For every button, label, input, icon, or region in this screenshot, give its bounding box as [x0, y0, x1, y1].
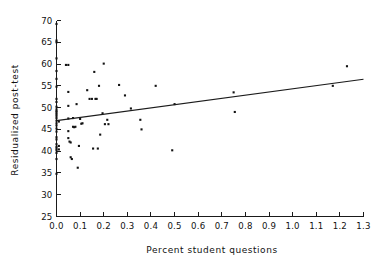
y-axis-tick-label: 45 [41, 124, 52, 134]
data-point [55, 131, 57, 133]
regression-line [57, 79, 364, 120]
scatter-plot-figure: 25303540455055606570 0.00.10.20.30.40.50… [0, 0, 386, 263]
y-axis-tick-label: 55 [41, 81, 52, 91]
data-point [55, 122, 57, 124]
data-point [118, 84, 120, 86]
data-point [55, 127, 57, 129]
data-point [139, 119, 141, 121]
data-point [106, 119, 108, 121]
data-point [55, 143, 57, 145]
data-point [58, 148, 60, 150]
data-point [86, 89, 88, 91]
data-point [155, 85, 157, 87]
data-point [124, 94, 126, 96]
data-point [97, 148, 99, 150]
data-point [55, 149, 57, 151]
x-axis-tick-label: 1.2 [333, 221, 347, 231]
data-point [55, 106, 57, 108]
y-axis-tick-label: 40 [41, 146, 52, 156]
x-axis-tick-label: 0.1 [73, 221, 87, 231]
data-point [89, 98, 91, 100]
data-point [67, 137, 69, 139]
data-point [55, 173, 57, 175]
data-point [233, 91, 235, 93]
data-point [55, 41, 57, 43]
chart-canvas: 25303540455055606570 0.00.10.20.30.40.50… [0, 0, 386, 263]
data-point [99, 134, 101, 136]
x-axis-tick-label: 0.2 [97, 221, 111, 231]
data-point [55, 98, 57, 100]
data-point [171, 149, 173, 151]
data-point [74, 126, 76, 128]
data-point [234, 111, 236, 113]
data-point [346, 65, 348, 67]
x-axis-tick-label: 0.6 [191, 221, 205, 231]
data-point [76, 103, 78, 105]
data-point [81, 122, 83, 124]
data-point [55, 57, 57, 59]
data-point [70, 141, 72, 143]
data-point [67, 105, 69, 107]
x-axis-tick-label: 0.9 [262, 221, 276, 231]
data-point [91, 98, 93, 100]
x-axis-tick-label: 0.5 [167, 221, 181, 231]
data-point [67, 130, 69, 132]
x-axis-tick-label: 0.8 [238, 221, 252, 231]
data-point [55, 23, 57, 25]
data-point [55, 138, 57, 140]
x-axis-tick-label: 0.7 [215, 221, 229, 231]
data-point [55, 136, 57, 138]
data-point [67, 64, 69, 66]
data-point [140, 128, 142, 130]
y-axis-title: Residualized post-test [10, 64, 20, 175]
data-point [55, 124, 57, 126]
data-point [79, 118, 81, 120]
x-axis-tick-label: 1.1 [309, 221, 323, 231]
x-axis-tick-label: 1.0 [286, 221, 300, 231]
y-axis-tick-label: 30 [41, 190, 52, 200]
data-point [130, 107, 132, 109]
y-axis-tick-label: 35 [41, 168, 52, 178]
x-axis: 0.00.10.20.30.40.50.60.70.80.91.01.11.21… [49, 212, 370, 231]
data-point [55, 86, 57, 88]
data-point [55, 158, 57, 160]
data-point [71, 158, 73, 160]
y-axis: 25303540455055606570 [41, 16, 61, 222]
data-point [104, 123, 106, 125]
data-point [55, 70, 57, 72]
y-axis-tick-label: 60 [41, 59, 52, 69]
x-axis-tick-label: 1.3 [356, 221, 370, 231]
data-point [55, 78, 57, 80]
data-point [77, 167, 79, 169]
x-axis-tick-label: 0.4 [144, 221, 158, 231]
data-point [103, 63, 105, 65]
data-point [55, 115, 57, 117]
x-axis-title: Percent student questions [146, 245, 277, 255]
data-point [96, 98, 98, 100]
x-axis-tick-label: 0.0 [49, 221, 63, 231]
data-point [65, 64, 67, 66]
regression-line-layer [57, 79, 364, 120]
data-point [107, 123, 109, 125]
data-point [92, 148, 94, 150]
data-point [58, 145, 60, 147]
data-point [78, 145, 80, 147]
y-axis-tick-label: 65 [41, 37, 52, 47]
y-axis-tick-label: 50 [41, 103, 52, 113]
x-axis-tick-label: 0.3 [120, 221, 134, 231]
data-point [67, 91, 69, 93]
data-point [93, 71, 95, 73]
data-point [55, 152, 57, 154]
data-point [55, 101, 57, 103]
data-point [98, 85, 100, 87]
data-point [55, 117, 57, 119]
data-point [332, 85, 334, 87]
y-axis-tick-label: 70 [41, 16, 52, 26]
data-points-layer [55, 23, 348, 175]
